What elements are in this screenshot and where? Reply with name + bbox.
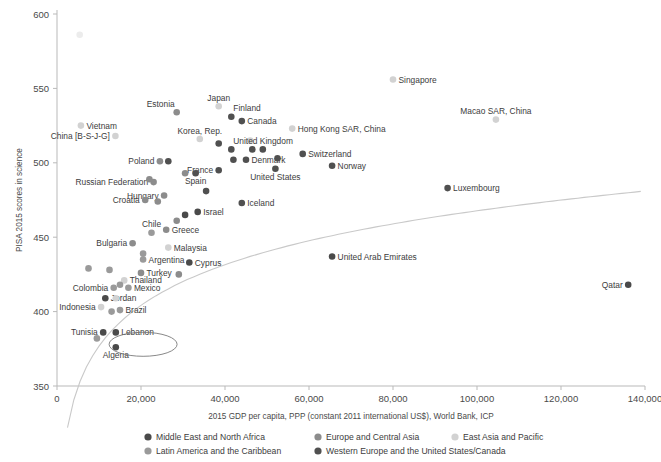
data-point-marker (228, 146, 235, 153)
data-point-label: Cyprus (195, 258, 222, 268)
legend-item[interactable]: Latin America and the Caribbean (144, 446, 281, 456)
data-point-marker (260, 146, 267, 153)
data-point-label: United States (250, 172, 300, 182)
y-tick-label: 350 (33, 381, 49, 392)
data-point (182, 212, 189, 219)
chart-root: 350400450500550600020,00040,00060,00080,… (0, 0, 661, 462)
data-point-marker (85, 265, 92, 272)
data-point-label: Tunisia (71, 327, 98, 337)
data-point (176, 271, 183, 278)
data-point-marker (165, 244, 172, 251)
data-point-marker (299, 151, 306, 158)
x-tick-label: 120,000 (544, 393, 578, 404)
data-point-marker (94, 335, 101, 342)
scatter-plot: 350400450500550600020,00040,00060,00080,… (0, 0, 661, 462)
data-point-label: Qatar (602, 280, 623, 290)
data-point-marker (329, 253, 336, 260)
data-point-label: Colombia (73, 283, 109, 293)
data-point-marker (274, 155, 281, 162)
data-point (85, 265, 92, 272)
data-point-marker (249, 146, 256, 153)
data-point-marker (76, 32, 83, 39)
legend-item[interactable]: East Asia and Pacific (451, 432, 544, 442)
data-point-marker (140, 256, 147, 263)
data-point-marker (215, 167, 222, 174)
data-point (230, 157, 237, 164)
x-tick-label: 20,000 (126, 393, 155, 404)
data-point: Tunisia (71, 327, 106, 337)
data-point-label: Switzerland (308, 149, 352, 159)
data-point-marker (117, 282, 124, 289)
y-tick-label: 500 (33, 157, 49, 168)
data-point-marker (110, 285, 117, 292)
data-point: United States (250, 166, 300, 182)
data-point: United Arab Emirates (329, 252, 417, 262)
x-tick-label: 0 (54, 393, 59, 404)
data-point (155, 198, 162, 205)
data-point-marker (186, 259, 193, 266)
data-point-marker (194, 209, 201, 216)
legend-item[interactable]: Western Europe and the United States/Can… (314, 446, 505, 456)
data-point-marker (113, 295, 120, 302)
legend-swatch-dot (314, 433, 321, 440)
data-point (165, 158, 172, 165)
data-point-marker (112, 133, 119, 140)
data-point: Algeria (103, 344, 129, 360)
data-point: Singapore (390, 75, 437, 85)
legend-item-label: Europe and Central Asia (326, 432, 419, 442)
data-point-marker (625, 282, 632, 289)
data-point-label: Japan (207, 93, 230, 103)
data-point-marker (125, 285, 132, 292)
data-point-label: Poland (128, 156, 154, 166)
data-point-marker (289, 125, 296, 132)
data-point (274, 155, 281, 162)
data-point-marker (215, 103, 222, 110)
data-point: Japan (207, 93, 230, 110)
data-point (117, 282, 124, 289)
data-point-label: Croatia (113, 195, 140, 205)
data-point: Argentina (140, 255, 185, 265)
data-point-marker (146, 176, 153, 183)
data-point-label: Indonesia (59, 302, 96, 312)
data-point (203, 188, 210, 195)
data-point-marker (182, 212, 189, 219)
data-point: Malaysia (165, 243, 207, 253)
x-tick-label: 40,000 (210, 393, 239, 404)
legend-item[interactable]: Middle East and North Africa (144, 432, 265, 442)
y-tick-label: 450 (33, 232, 49, 243)
data-point (94, 335, 101, 342)
data-point-marker (100, 329, 107, 336)
data-point-label: Macao SAR, China (460, 106, 532, 116)
data-point: Canada (239, 116, 277, 126)
data-point-label: China [B-S-J-G] (51, 131, 110, 141)
x-tick-label: 140,000 (628, 393, 661, 404)
legend-item-label: Latin America and the Caribbean (156, 446, 281, 456)
data-point: Chile (142, 219, 161, 236)
data-point-marker (215, 140, 222, 147)
legend-item[interactable]: Europe and Central Asia (314, 432, 419, 442)
data-point-label: Russian Federation (75, 177, 148, 187)
data-point-marker (197, 136, 204, 143)
data-point-label: Canada (247, 116, 277, 126)
data-point-marker (444, 185, 451, 192)
data-point-marker (163, 227, 170, 234)
data-point: Korea, Rep. (177, 126, 222, 143)
legend-swatch-dot (314, 447, 321, 454)
data-point-marker (102, 295, 109, 302)
x-tick-label: 80,000 (378, 393, 407, 404)
data-point-marker (493, 116, 500, 123)
data-point (146, 176, 153, 183)
x-tick-label: 100,000 (460, 393, 494, 404)
data-point-label: Bulgaria (96, 238, 127, 248)
x-axis-title: 2015 GDP per capita, PPP (constant 2011 … (208, 412, 494, 421)
data-point-marker (113, 329, 120, 336)
data-point-marker (230, 157, 237, 164)
data-point-marker (228, 113, 235, 120)
data-point-label: Norway (338, 161, 367, 171)
data-point-label: Greece (172, 225, 200, 235)
legend-swatch-dot (451, 433, 458, 440)
data-point: Bulgaria (96, 238, 136, 248)
data-point-marker (98, 304, 105, 311)
data-point-marker (182, 170, 189, 177)
data-point (106, 267, 113, 274)
